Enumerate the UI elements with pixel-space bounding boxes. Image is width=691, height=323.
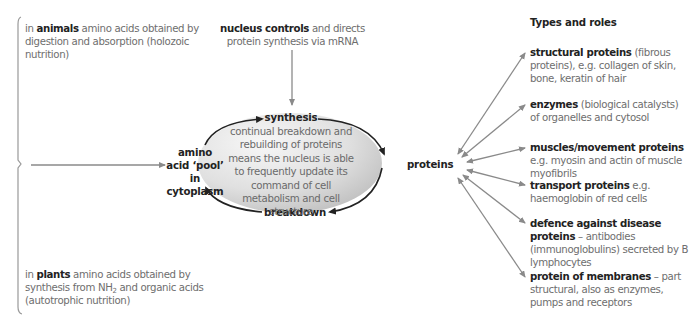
role-item: transport proteins e.g. haemoglobin of r… <box>530 179 690 205</box>
role-arrows <box>458 53 525 277</box>
role-item: enzymes (biological catalysts) of organe… <box>530 98 690 124</box>
amino-acid-pool-label: amino acid ‘pool’ in cytoplasm <box>165 146 225 198</box>
plants-source-note: in plants amino acids obtained by synthe… <box>25 268 205 307</box>
cycle-explanation: continual breakdown and rebuilding of pr… <box>227 125 355 219</box>
role-item: defence against disease proteins – antib… <box>530 217 690 269</box>
proteins-label: proteins <box>407 158 453 171</box>
synthesis-label: synthesis <box>262 111 320 124</box>
left-brace <box>18 17 22 314</box>
animals-source-note: in animals amino acids obtained by diges… <box>25 22 205 61</box>
nucleus-note: nucleus controls and directs protein syn… <box>210 22 375 48</box>
role-item: structural proteins (fibrous proteins), … <box>530 46 690 85</box>
roles-heading: Types and roles <box>530 16 617 29</box>
role-item: muscles/movement proteins e.g. myosin an… <box>530 141 690 180</box>
animals-keyword: animals <box>36 23 78 34</box>
nucleus-keyword: nucleus controls <box>220 23 309 34</box>
plants-keyword: plants <box>36 269 70 280</box>
role-item: protein of membranes – part structural, … <box>530 270 690 309</box>
